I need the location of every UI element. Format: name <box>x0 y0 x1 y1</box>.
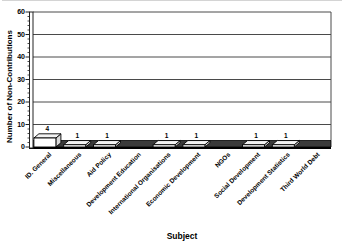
back-wall <box>33 12 331 141</box>
bar-miscellaneous <box>64 145 86 147</box>
bar-top-international-organisations <box>153 141 180 145</box>
bar-value-label-development-statistics: 1 <box>284 132 288 139</box>
category-label-id-general: ID. General <box>23 151 52 180</box>
y-tick-label-30: 30 <box>17 76 25 83</box>
bar-top-social-development <box>243 141 270 145</box>
bar-value-label-miscellaneous: 1 <box>75 132 79 139</box>
bar-id-general <box>34 138 56 147</box>
y-tick-label-20: 20 <box>17 98 25 105</box>
category-label-development-education: Development Education <box>85 151 143 209</box>
bar-top-miscellaneous <box>64 141 91 145</box>
bar-top-economic-development <box>183 141 210 145</box>
bar-international-organisations <box>153 145 175 147</box>
bar-value-label-social-development: 1 <box>254 132 258 139</box>
bar-top-aid-policy <box>94 141 121 145</box>
y-axis-wall <box>30 12 34 148</box>
category-label-ngos: NGOs <box>213 150 231 168</box>
bar-top-development-statistics <box>272 141 299 145</box>
bar-value-label-aid-policy: 1 <box>105 132 109 139</box>
y-tick-label-60: 60 <box>17 8 25 15</box>
category-label-aid-policy: Aid Policy <box>85 150 113 178</box>
bar-economic-development <box>183 145 205 147</box>
plot-svg: 41111110102030405060ID. GeneralMiscellan… <box>0 0 344 245</box>
y-tick-label-10: 10 <box>17 121 25 128</box>
bar-value-label-economic-development: 1 <box>195 132 199 139</box>
category-label-development-statistics: Development Statistics <box>235 150 292 207</box>
y-tick-label-0: 0 <box>21 143 25 150</box>
chart-area: 41111110102030405060ID. GeneralMiscellan… <box>0 0 344 245</box>
bar-development-statistics <box>272 145 294 147</box>
bar-aid-policy <box>94 145 116 147</box>
bar-value-label-id-general: 4 <box>46 125 50 132</box>
y-tick-label-40: 40 <box>17 53 25 60</box>
y-tick-label-50: 50 <box>17 31 25 38</box>
category-label-economic-development: Economic Development <box>145 150 203 208</box>
x-axis-title: Subject <box>112 231 252 241</box>
bar-value-label-international-organisations: 1 <box>165 132 169 139</box>
y-axis-title: Number of Non-Contributions <box>5 6 16 168</box>
bar-social-development <box>243 145 265 147</box>
bar-top-id-general <box>34 134 61 138</box>
